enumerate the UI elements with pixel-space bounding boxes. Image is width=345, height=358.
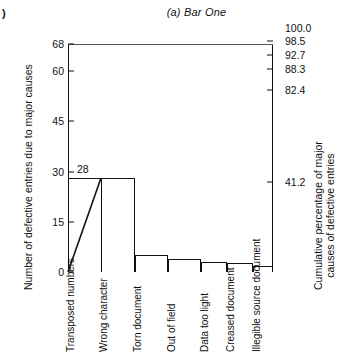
x-category-label-torn-document: Torn document [133,286,144,352]
y-axis-left-title: Number of defective entries due to major… [22,64,34,290]
bar-torn-document [135,255,168,272]
cat-text-3: Out of field [167,304,178,352]
plot-top-border [68,44,273,45]
cat-text-5: Creased document [226,268,237,353]
y-tick-right-100-0: 100.0 [285,22,311,34]
y-tick-left-0: 0 [34,266,64,278]
x-category-label-transposed-numbers: Transposed numbers [66,258,77,352]
x-category-label-out-of-field: Out of field [167,304,178,352]
y-tick-right-92-7: 92.7 [285,49,305,61]
y-tick-left-30: 30 [34,166,64,178]
y-tick-left-68: 68 [34,38,64,50]
pareto-chart-figure: ) (a) Bar One Number of defective entrie… [0,0,345,358]
x-category-label-data-too-light: Data too light [200,293,211,352]
x-category-label-creased-document: Creased document [226,268,237,353]
cat-text-0: Transposed numbers [66,258,77,352]
cat-text-4: Data too light [200,293,211,352]
chart-title-text: (a) Bar One [167,6,227,18]
x-category-label-illegible-source-document: Illegible source document [252,239,263,352]
x-category-label-wrong-character: Wrong character [99,278,110,352]
y-tick-right-82-4: 82.4 [285,84,305,96]
y-tick-left-15: 15 [34,216,64,228]
cat-text-6: Illegible source document [252,239,263,352]
bar-divider-1 [101,178,102,272]
bar-out-of-field [168,259,201,272]
y-tick-right-88-3: 88.3 [285,63,305,75]
cat-text-1: Wrong character [99,278,110,352]
bar-value-label-28: 28 [77,163,89,175]
y-tick-right-98-5: 98.5 [285,35,305,47]
y-tick-left-60: 60 [34,65,64,77]
cat-text-2: Torn document [133,286,144,352]
bar-data-too-light [201,262,227,272]
y-tick-left-45: 45 [34,115,64,127]
y-tick-right-41-2: 41.2 [285,176,305,188]
y-axis-right-ticks: 41.2 82.4 88.3 92.7 98.5 100.0 [280,0,340,358]
y-axis-left-ticks: 0 15 30 45 60 68 [34,0,64,358]
